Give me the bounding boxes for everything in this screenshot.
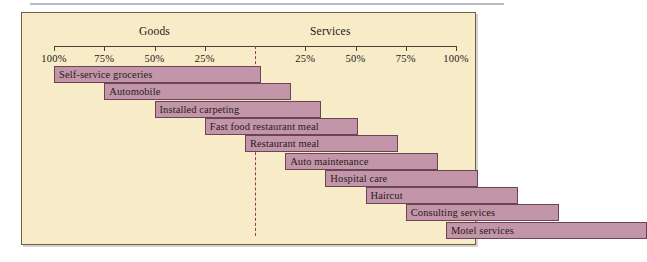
bar-label: Auto maintenance <box>286 156 368 167</box>
page-top-rule <box>30 3 504 5</box>
bar: Consulting services <box>406 204 559 221</box>
bar: Haircut <box>366 187 519 204</box>
bar: Restaurant meal <box>245 135 398 152</box>
bar-label: Restaurant meal <box>246 138 319 149</box>
chart-panel: Goods Services 100%75%50%25%25%50%75%100… <box>21 12 476 245</box>
bar-label: Fast food restaurant meal <box>206 121 319 132</box>
bar-label: Installed carpeting <box>156 104 240 115</box>
bar-label: Self-service groceries <box>55 69 152 80</box>
bar-label: Consulting services <box>407 207 495 218</box>
bar-label: Hospital care <box>326 173 387 184</box>
bar: Hospital care <box>325 170 478 187</box>
bar-label: Haircut <box>367 190 403 201</box>
bar-group: Self-service groceriesAutomobileInstalle… <box>22 13 475 244</box>
bar-label: Motel services <box>447 225 514 236</box>
bar: Automobile <box>104 83 291 100</box>
bar: Self-service groceries <box>54 66 261 83</box>
bar: Motel services <box>446 222 647 239</box>
bar: Auto maintenance <box>285 153 438 170</box>
bar: Fast food restaurant meal <box>205 118 358 135</box>
bar: Installed carpeting <box>155 101 322 118</box>
bar-label: Automobile <box>105 86 160 97</box>
